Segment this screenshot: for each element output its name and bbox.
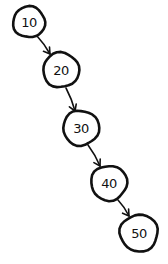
node-value-label: 40 — [101, 176, 117, 191]
node-value-label: 30 — [73, 121, 89, 136]
node-value-label: 20 — [53, 63, 69, 78]
edge-10-to-20 — [37, 36, 50, 54]
tree-node-40: 40 — [91, 166, 127, 201]
tree-node-20: 20 — [43, 52, 79, 87]
node-value-label: 10 — [21, 15, 37, 30]
nodes-group: 1020304050 — [13, 6, 158, 252]
tree-node-50: 50 — [119, 215, 157, 252]
node-value-label: 50 — [131, 226, 147, 241]
bst-diagram: 1020304050 — [0, 0, 168, 264]
edge-40-to-50 — [118, 200, 129, 216]
edge-30-to-40 — [88, 145, 100, 166]
tree-node-30: 30 — [63, 111, 99, 146]
edge-20-to-30 — [66, 88, 76, 111]
tree-node-10: 10 — [13, 6, 45, 37]
